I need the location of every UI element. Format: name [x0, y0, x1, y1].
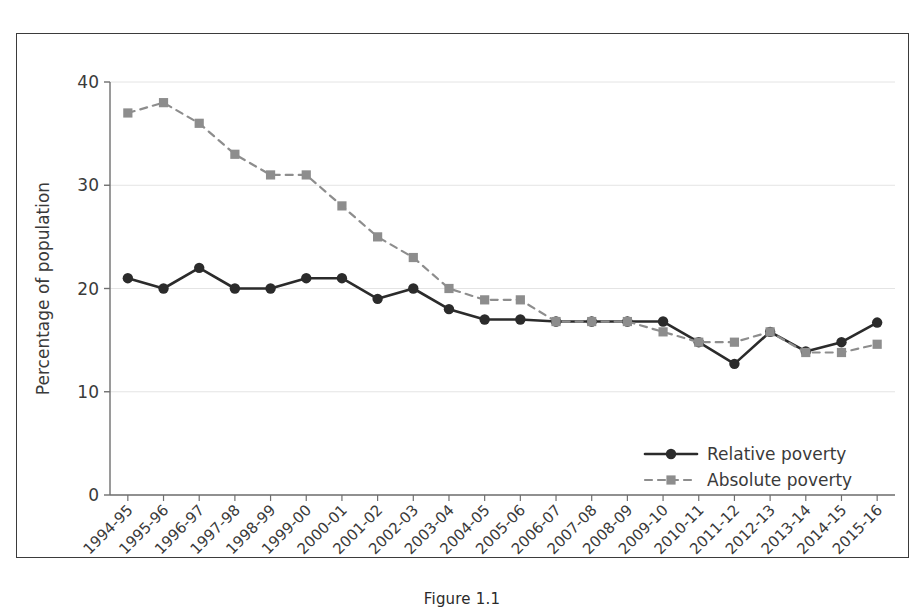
data-point — [265, 283, 275, 293]
data-point — [766, 327, 775, 336]
legend-label: Relative poverty — [707, 444, 846, 464]
data-point — [158, 283, 168, 293]
data-point — [372, 294, 382, 304]
data-point — [836, 337, 846, 347]
data-point — [730, 338, 739, 347]
series-relative-poverty — [123, 263, 883, 369]
data-point — [230, 283, 240, 293]
data-point — [801, 348, 810, 357]
figure-frame: 010203040Percentage of population1994-95… — [16, 33, 909, 558]
data-point — [837, 348, 846, 357]
data-point — [408, 283, 418, 293]
data-point — [302, 170, 311, 179]
data-point — [515, 314, 525, 324]
data-point — [873, 340, 882, 349]
data-point — [123, 273, 133, 283]
gridlines — [110, 82, 895, 495]
data-point — [551, 317, 560, 326]
y-tick-label: 40 — [77, 72, 99, 92]
data-point — [337, 273, 347, 283]
y-tick-label: 30 — [77, 175, 99, 195]
data-point — [587, 317, 596, 326]
data-point — [444, 284, 453, 293]
data-point — [444, 304, 454, 314]
data-point — [872, 317, 882, 327]
data-point — [658, 316, 668, 326]
y-axis-ticks: 010203040 — [77, 72, 110, 505]
y-tick-label: 10 — [77, 382, 99, 402]
data-point — [194, 263, 204, 273]
legend-marker-circle-icon — [666, 449, 676, 459]
data-point — [694, 338, 703, 347]
data-point — [480, 295, 489, 304]
data-point — [301, 273, 311, 283]
data-point — [159, 98, 168, 107]
data-point — [337, 201, 346, 210]
legend-marker-square-icon — [666, 475, 675, 484]
y-tick-label: 0 — [88, 485, 99, 505]
data-point — [623, 317, 632, 326]
y-axis-title: Percentage of population — [33, 182, 53, 395]
legend-label: Absolute poverty — [707, 470, 852, 490]
y-tick-label: 20 — [77, 279, 99, 299]
chart-legend: Relative povertyAbsolute poverty — [645, 444, 852, 490]
data-point — [409, 253, 418, 262]
data-point — [266, 170, 275, 179]
legend-item: Absolute poverty — [645, 470, 852, 490]
data-point — [729, 359, 739, 369]
data-point — [123, 108, 132, 117]
data-point — [230, 150, 239, 159]
series-line — [128, 268, 877, 364]
data-point — [516, 295, 525, 304]
legend-item: Relative poverty — [645, 444, 846, 464]
data-point — [658, 327, 667, 336]
series-line — [128, 103, 877, 353]
figure-caption: Figure 1.1 — [0, 588, 924, 608]
poverty-line-chart: 010203040Percentage of population1994-95… — [17, 34, 910, 559]
data-point — [479, 314, 489, 324]
data-point — [195, 119, 204, 128]
x-axis-ticks: 1994-951995-961996-971997-981998-991999-… — [80, 495, 886, 558]
data-point — [373, 232, 382, 241]
